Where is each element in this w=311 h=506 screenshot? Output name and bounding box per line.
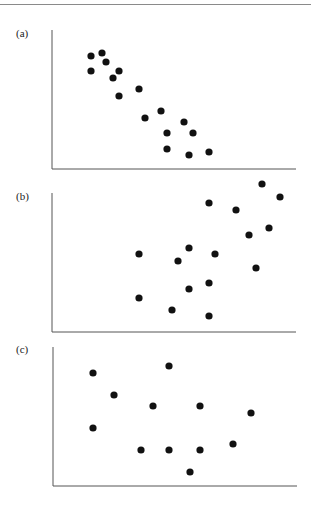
- data-point: [163, 145, 170, 152]
- data-point: [245, 231, 252, 238]
- data-point: [186, 468, 193, 475]
- data-point: [115, 67, 122, 74]
- scatter-plot-a: [52, 30, 296, 169]
- data-point: [196, 402, 203, 409]
- data-point: [205, 148, 212, 155]
- data-point: [87, 67, 94, 74]
- scatter-plot-c: [53, 347, 297, 486]
- data-point: [232, 206, 239, 213]
- data-point: [205, 199, 212, 206]
- data-point: [276, 193, 283, 200]
- data-point: [163, 129, 170, 136]
- data-point: [180, 118, 187, 125]
- data-point: [211, 250, 218, 257]
- data-point: [165, 446, 172, 453]
- data-point: [185, 285, 192, 292]
- data-point: [165, 362, 172, 369]
- data-point: [135, 250, 142, 257]
- data-point: [135, 85, 142, 92]
- scatter-plots: [0, 0, 311, 506]
- data-point: [141, 114, 148, 121]
- data-point: [229, 440, 236, 447]
- data-point: [135, 294, 142, 301]
- data-point: [98, 49, 105, 56]
- data-point: [189, 129, 196, 136]
- data-point: [174, 257, 181, 264]
- data-point: [168, 306, 175, 313]
- data-point: [196, 446, 203, 453]
- data-point: [115, 92, 122, 99]
- data-point: [247, 409, 254, 416]
- data-point: [265, 224, 272, 231]
- data-point: [137, 446, 144, 453]
- data-point: [185, 244, 192, 251]
- data-point: [102, 58, 109, 65]
- data-point: [205, 312, 212, 319]
- data-point: [89, 424, 96, 431]
- data-point: [109, 74, 116, 81]
- data-point: [205, 279, 212, 286]
- data-point: [149, 402, 156, 409]
- data-point: [252, 264, 259, 271]
- data-point: [185, 151, 192, 158]
- data-point: [89, 369, 96, 376]
- data-point: [258, 180, 265, 187]
- scatter-plot-b: [52, 180, 296, 332]
- data-point: [87, 52, 94, 59]
- data-point: [157, 107, 164, 114]
- data-point: [110, 391, 117, 398]
